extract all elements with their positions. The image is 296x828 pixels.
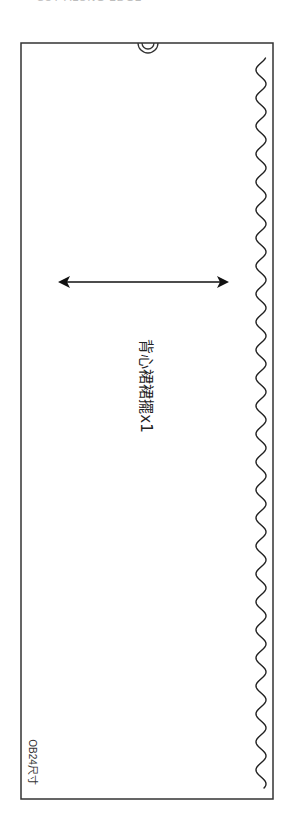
piece-label: 背心裙裙擺x1	[137, 339, 158, 432]
scalloped-edge	[256, 58, 266, 788]
notch-marker-icon	[138, 43, 158, 53]
size-label: OB24尺寸	[26, 739, 41, 785]
grainline-arrow-icon	[58, 276, 229, 288]
